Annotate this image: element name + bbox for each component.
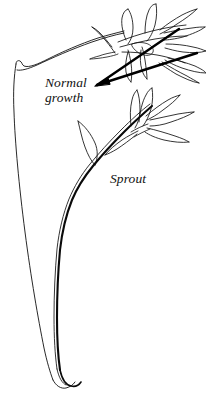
label-normal-growth-line2: growth bbox=[45, 91, 87, 105]
label-normal-growth-line1: Normal bbox=[45, 75, 87, 90]
sprout-stem bbox=[54, 104, 152, 386]
plant-growth-illustration: Normal growth Sprout bbox=[0, 0, 206, 396]
sprout-leaf-cluster bbox=[105, 88, 194, 155]
label-sprout: Sprout bbox=[110, 172, 146, 186]
illustration-canvas bbox=[0, 0, 206, 396]
normal-growth-leaf-cluster bbox=[90, 4, 206, 83]
label-normal-growth: Normal growth bbox=[45, 76, 87, 104]
